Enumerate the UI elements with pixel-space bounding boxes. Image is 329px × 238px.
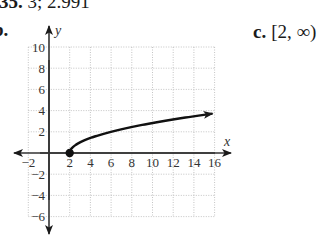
x-tick-label: 14 <box>187 155 201 170</box>
sqrt-curve <box>70 114 213 153</box>
x-axis-label: x <box>223 134 231 149</box>
x-tick-label: 2 <box>66 155 73 170</box>
closed-dot-start-point <box>66 149 74 157</box>
x-tick-label: 8 <box>129 155 136 170</box>
grid <box>28 47 214 217</box>
x-tick-label: 16 <box>208 155 222 170</box>
x-tick-label: 4 <box>87 155 94 170</box>
y-tick-label: −4 <box>31 188 45 203</box>
sqrt-graph: −2246810121416108642−2−4−6 x y <box>0 0 329 238</box>
y-tick-label: 10 <box>32 40 45 55</box>
y-axis-label: y <box>53 23 62 38</box>
y-tick-label: 8 <box>39 61 46 76</box>
x-tick-label: 6 <box>108 155 115 170</box>
y-tick-label: 4 <box>39 103 46 118</box>
y-tick-label: −2 <box>31 167 45 182</box>
x-tick-label: 12 <box>167 155 180 170</box>
y-tick-label: 6 <box>39 82 46 97</box>
y-tick-label: −6 <box>31 209 45 224</box>
y-tick-label: 2 <box>39 124 46 139</box>
x-tick-label: 10 <box>146 155 159 170</box>
